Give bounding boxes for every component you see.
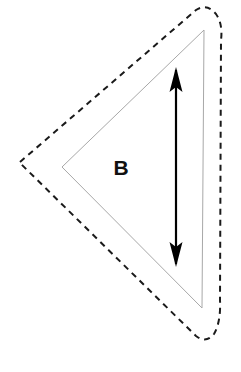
figure-svg: B [0, 0, 241, 372]
canvas-background [0, 0, 241, 372]
figure-canvas: B [0, 0, 241, 372]
region-label-b: B [113, 156, 128, 179]
